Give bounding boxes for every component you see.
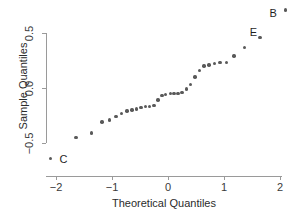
data-point [130,108,133,111]
x-axis-title: Theoretical Quantiles [46,197,282,209]
data-point [144,105,147,108]
x-tick-mark [280,176,281,180]
x-tick-label: 1 [212,181,236,194]
data-point [218,61,221,64]
data-point [49,157,52,160]
data-point [156,98,159,101]
x-tick-mark [168,176,169,180]
data-point [193,75,196,78]
point-label-e: E [250,27,257,38]
data-point [100,120,103,123]
x-tick-mark [112,176,113,180]
data-point [114,115,117,118]
point-label-b: B [270,8,277,19]
data-point [176,92,179,95]
data-point [185,87,188,90]
x-tick-label: −2 [44,181,68,194]
data-point [198,69,201,72]
point-label-c: C [59,154,67,165]
x-tick-mark [224,176,225,180]
data-point [125,109,128,112]
x-tick-mark [56,176,57,180]
y-tick-mark [42,143,46,144]
data-point [135,107,138,110]
data-point [164,93,167,96]
x-tick-label: −1 [100,181,124,194]
y-axis-title: Sample Quantiles [17,21,29,151]
data-point [169,92,172,95]
data-point [189,83,192,86]
qq-plot-figure: −2−1012 0.50.0−0.5 CEB Theoretical Quant… [0,0,292,218]
data-point [160,94,163,97]
data-point [152,104,155,107]
data-point [120,112,123,115]
data-point [180,91,183,94]
data-point [90,131,93,134]
data-point [225,61,228,64]
data-point [207,63,210,66]
data-point [213,62,216,65]
y-axis-line [46,33,47,143]
data-point [284,8,287,11]
x-tick-label: 0 [156,181,180,194]
data-point [74,136,77,139]
data-point [108,118,111,121]
y-tick-mark [42,33,46,34]
data-point [202,64,205,67]
data-point [139,106,142,109]
data-point [258,36,261,39]
x-tick-label: 2 [268,181,292,194]
x-axis-line [46,176,282,177]
data-point [232,54,235,57]
data-point [172,92,175,95]
y-tick-mark [42,88,46,89]
data-point [148,105,151,108]
data-point [243,46,246,49]
